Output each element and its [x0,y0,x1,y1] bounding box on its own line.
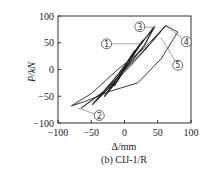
y-axis-label: P/kN [26,61,37,83]
y-tick-label: 50 [44,37,54,48]
svg-text:2: 2 [97,112,102,121]
svg-text:5: 5 [175,61,180,70]
y-tick-label: 0 [49,64,54,75]
x-tick-labels: −100−50050100 [48,127,199,138]
svg-text:3: 3 [137,23,142,32]
y-tick-label: −50 [38,91,54,102]
x-axis-label: Δ/mm [112,141,137,152]
x-tick-label: −100 [48,127,69,138]
annotations: 12345 [78,22,191,121]
x-tick-label: 0 [122,127,127,138]
hysteresis-chart: 12345 100500−50−100 −100−50050100 P/kN Δ… [0,0,211,181]
svg-text:1: 1 [104,40,109,49]
x-tick-label: 50 [153,127,163,138]
x-tick-label: −50 [83,127,99,138]
x-tick-label: 100 [184,127,199,138]
chart-caption: (b) CIJ-1/R [101,154,147,166]
svg-text:4: 4 [184,38,189,47]
y-tick-label: 100 [39,11,54,22]
